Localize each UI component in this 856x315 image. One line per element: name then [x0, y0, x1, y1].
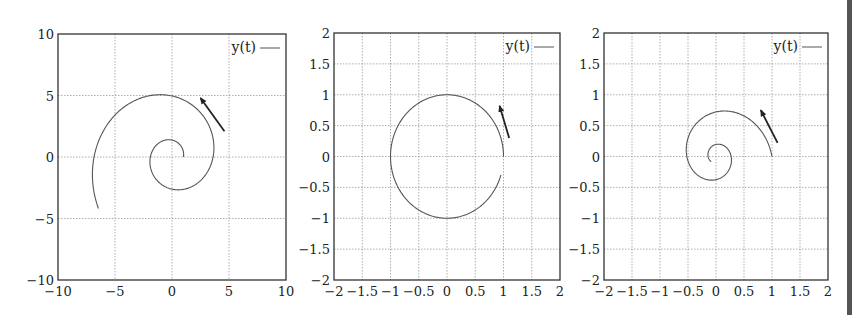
x-tick-label: 1.5 [790, 284, 811, 299]
x-tick-label: 0.5 [465, 284, 486, 299]
legend-label: y(t) [773, 38, 798, 54]
y-tick-label: 2 [322, 26, 330, 41]
x-tick-label: 1 [768, 284, 776, 299]
y-tick-label: 0 [322, 150, 330, 165]
x-tick-label: 0.5 [734, 284, 755, 299]
plot-outward-spiral: −10−10−5−500551010y(t) [27, 27, 295, 299]
x-tick-label: −1 [381, 284, 400, 299]
direction-arrow-icon [201, 98, 225, 131]
x-tick-label: 10 [278, 284, 295, 299]
y-tick-label: 2 [592, 26, 600, 41]
x-tick-label: 1 [499, 284, 507, 299]
x-tick-label: 5 [225, 284, 233, 299]
y-tick-label: −1 [581, 211, 600, 226]
x-tick-label: −0.5 [672, 284, 704, 299]
y-tick-label: 1 [322, 88, 330, 103]
y-tick-label: 0.5 [309, 119, 330, 134]
series-y-t-curve [686, 111, 772, 180]
y-tick-label: −0.5 [568, 180, 600, 195]
plot-circle: −2−2−1.5−1.5−1−1−0.5−0.5000.50.5111.51.5… [298, 26, 564, 299]
direction-arrow-icon [500, 106, 510, 138]
x-tick-label: 0 [443, 284, 451, 299]
y-tick-label: 0 [592, 150, 600, 165]
y-tick-label: 0 [46, 150, 54, 165]
x-tick-label: −1.5 [346, 284, 378, 299]
legend-label: y(t) [231, 39, 256, 55]
x-tick-label: 0 [168, 284, 176, 299]
y-tick-label: 1.5 [309, 57, 330, 72]
y-tick-label: 1.5 [579, 57, 600, 72]
x-tick-label: −1.5 [616, 284, 648, 299]
page-edge-bar [847, 0, 852, 315]
direction-arrow-icon [761, 110, 778, 143]
figure-canvas: −10−10−5−500551010y(t) −2−2−1.5−1.5−1−1−… [0, 0, 856, 315]
y-tick-label: 10 [37, 27, 54, 42]
y-tick-label: −0.5 [298, 180, 330, 195]
y-tick-label: −1 [311, 211, 330, 226]
y-tick-label: 0.5 [579, 119, 600, 134]
y-tick-label: −1.5 [298, 242, 330, 257]
y-tick-label: 5 [46, 89, 54, 104]
x-tick-label: −1 [650, 284, 669, 299]
y-tick-label: −2 [581, 273, 600, 288]
x-tick-label: 2 [824, 284, 832, 299]
x-tick-label: 0 [712, 284, 720, 299]
legend-label: y(t) [505, 38, 530, 54]
x-tick-label: 2 [556, 284, 564, 299]
series-y-t-curve [92, 95, 214, 209]
x-tick-label: −5 [105, 284, 124, 299]
plot-inward-spiral: −2−2−1.5−1.5−1−1−0.5−0.5000.50.5111.51.5… [568, 26, 832, 299]
y-tick-label: −5 [35, 212, 54, 227]
y-tick-label: −2 [311, 273, 330, 288]
x-tick-label: 1.5 [521, 284, 542, 299]
y-tick-label: 1 [592, 88, 600, 103]
y-tick-label: −1.5 [568, 242, 600, 257]
x-tick-label: −0.5 [403, 284, 435, 299]
y-tick-label: −10 [27, 273, 54, 288]
